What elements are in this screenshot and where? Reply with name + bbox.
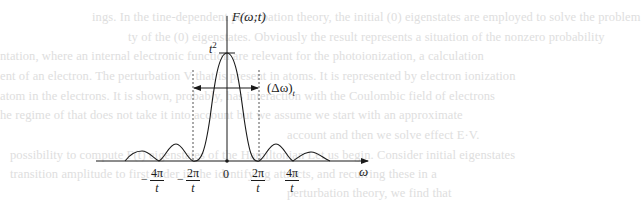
tick-denominator: t (290, 181, 293, 194)
y-axis-label: F(ω;t) (232, 9, 266, 25)
tick-numerator: 4π (150, 167, 164, 181)
peak-label: t2 (209, 40, 217, 57)
origin-dot (225, 159, 229, 163)
tick-numerator: 4π (285, 167, 299, 181)
tick-denominator: t (191, 181, 194, 194)
width-label-subscript: t (293, 88, 296, 98)
minus-sign: − (141, 173, 148, 185)
width-label-base: (Δω) (267, 80, 293, 95)
tick-denominator: t (256, 181, 259, 194)
tick-numerator: 2π (186, 167, 200, 181)
origin-label: 0 (223, 167, 229, 182)
tick-numerator: 2π (251, 167, 265, 181)
tick-denominator: t (155, 181, 158, 194)
width-label: (Δω)t (267, 80, 295, 98)
minus-sign: − (177, 173, 184, 185)
x-axis-label: ω (359, 164, 368, 180)
peak-label-exponent: 2 (212, 40, 217, 50)
